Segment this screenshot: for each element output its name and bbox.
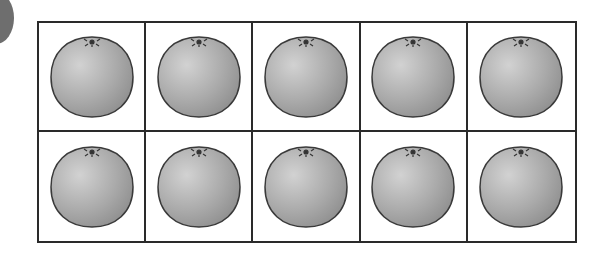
ten-frame-cell bbox=[253, 132, 360, 241]
ten-frame-cell bbox=[361, 23, 468, 132]
partial-circle-decoration bbox=[0, 0, 14, 44]
ten-frame-cell bbox=[39, 132, 146, 241]
orange-icon bbox=[368, 33, 458, 121]
ten-frame-cell bbox=[468, 132, 575, 241]
orange-icon bbox=[261, 143, 351, 231]
ten-frame-cell bbox=[146, 132, 253, 241]
orange-icon bbox=[154, 33, 244, 121]
ten-frame-cell bbox=[468, 23, 575, 132]
orange-icon bbox=[154, 143, 244, 231]
orange-icon bbox=[47, 143, 137, 231]
orange-icon bbox=[368, 143, 458, 231]
ten-frame-cell bbox=[361, 132, 468, 241]
orange-icon bbox=[476, 33, 566, 121]
ten-frame-cell bbox=[39, 23, 146, 132]
orange-icon bbox=[47, 33, 137, 121]
orange-icon bbox=[261, 33, 351, 121]
ten-frame-grid bbox=[37, 21, 577, 243]
orange-icon bbox=[476, 143, 566, 231]
ten-frame-cell bbox=[253, 23, 360, 132]
ten-frame-cell bbox=[146, 23, 253, 132]
